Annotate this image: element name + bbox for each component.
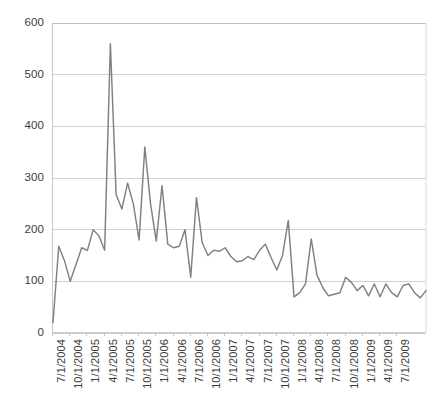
y-tick-label-300: 300	[0, 172, 44, 184]
x-tick-label-12: 7/1/2007	[263, 339, 274, 383]
y-tick-label-0: 0	[0, 327, 44, 339]
x-tickmark-0	[52, 333, 53, 336]
x-tick-label-5: 10/1/2005	[142, 339, 153, 389]
x-tickmark-10	[224, 333, 225, 336]
x-tick-label-2: 1/1/2005	[90, 339, 101, 383]
line-chart: 6005004003002001000 7/1/200410/1/20041/1…	[0, 0, 442, 409]
x-tickmark-3	[104, 333, 105, 336]
x-tickmark-15	[310, 333, 311, 336]
x-tick-label-9: 10/1/2006	[211, 339, 222, 389]
x-tick-label-6: 1/1/2006	[159, 339, 170, 383]
x-tick-label-11: 4/1/2007	[245, 339, 256, 383]
y-tick-label-600: 600	[0, 17, 44, 29]
x-tick-label-17: 10/1/2008	[349, 339, 360, 389]
x-tick-label-0: 7/1/2004	[56, 339, 67, 383]
x-tick-label-14: 1/1/2008	[297, 339, 308, 383]
x-tickmark-17	[345, 333, 346, 336]
x-tickmark-13	[276, 333, 277, 336]
x-tickmark-6	[155, 333, 156, 336]
x-tickmark-20	[396, 333, 397, 336]
x-tick-label-20: 7/1/2009	[400, 339, 411, 383]
x-tick-label-18: 1/1/2009	[366, 339, 377, 383]
x-tickmark-8	[190, 333, 191, 336]
x-tickmark-7	[173, 333, 174, 336]
x-tick-label-19: 4/1/2009	[383, 339, 394, 383]
x-axis: 7/1/200410/1/20041/1/20054/1/20057/1/200…	[52, 333, 425, 409]
x-tickmark-5	[138, 333, 139, 336]
x-tickmark-16	[327, 333, 328, 336]
x-tick-label-4: 7/1/2005	[125, 339, 136, 383]
x-tick-label-13: 10/1/2007	[280, 339, 291, 389]
y-tick-label-500: 500	[0, 69, 44, 81]
x-tickmark-2	[86, 333, 87, 336]
x-tickmark-11	[241, 333, 242, 336]
x-tick-label-8: 7/1/2006	[194, 339, 205, 383]
x-tickmark-18	[362, 333, 363, 336]
x-tickmark-9	[207, 333, 208, 336]
x-tickmark-1	[69, 333, 70, 336]
x-tickmark-19	[379, 333, 380, 336]
x-tick-label-10: 1/1/2007	[228, 339, 239, 383]
data-series-line	[53, 44, 426, 323]
y-tick-label-400: 400	[0, 121, 44, 133]
x-tickmark-12	[259, 333, 260, 336]
x-tick-label-16: 7/1/2008	[331, 339, 342, 383]
plot-area	[52, 23, 425, 333]
x-tickmark-4	[121, 333, 122, 336]
x-tickmark-14	[293, 333, 294, 336]
y-tick-label-100: 100	[0, 276, 44, 288]
x-tick-label-1: 10/1/2004	[73, 339, 84, 389]
y-tick-label-200: 200	[0, 224, 44, 236]
x-tick-label-15: 4/1/2008	[314, 339, 325, 383]
x-tick-label-7: 4/1/2006	[177, 339, 188, 383]
y-axis: 6005004003002001000	[0, 0, 44, 409]
plot-svg	[53, 23, 426, 333]
x-tick-label-3: 4/1/2005	[108, 339, 119, 383]
